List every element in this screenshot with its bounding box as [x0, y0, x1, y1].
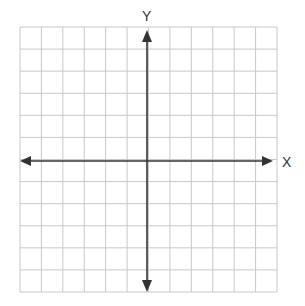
y-axis-label: Y: [142, 8, 151, 24]
x-axis-label: X: [282, 154, 291, 170]
grid-lines: [20, 27, 277, 292]
x-axis-right-arrow-icon: [262, 156, 273, 166]
y-axis-down-arrow-icon: [142, 280, 152, 292]
x-axis-left-arrow-icon: [20, 156, 31, 166]
coordinate-plane: [0, 0, 305, 306]
y-axis-up-arrow-icon: [142, 30, 152, 42]
